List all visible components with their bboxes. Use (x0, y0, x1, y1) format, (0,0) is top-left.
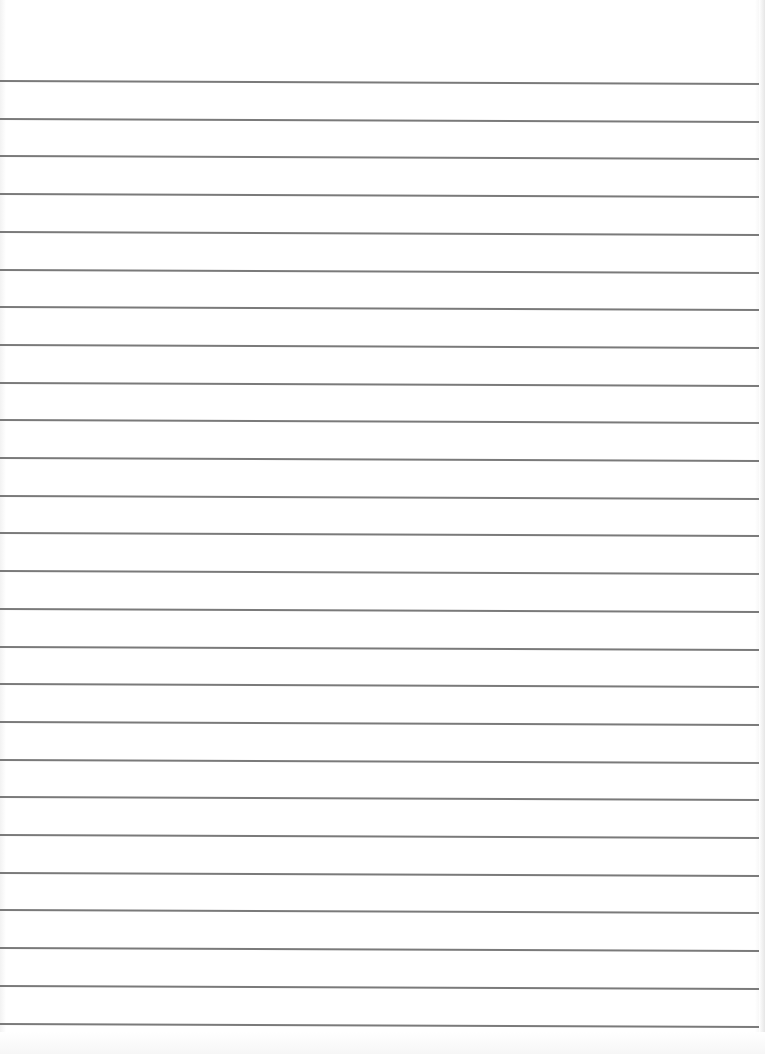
rule-line (0, 1023, 760, 1028)
rule-line (0, 457, 760, 462)
rule-line (0, 570, 760, 575)
rule-line (0, 419, 760, 424)
rule-line (0, 646, 760, 651)
rule-line (0, 608, 760, 613)
rule-line (0, 155, 760, 160)
ruled-paper-page (0, 0, 765, 1054)
rule-line (0, 118, 760, 123)
rule-line (0, 909, 760, 914)
rule-line (0, 306, 760, 311)
rule-line (0, 495, 760, 500)
rule-line (0, 382, 760, 387)
rule-line (0, 872, 760, 877)
rule-line (0, 269, 760, 274)
rule-line (0, 947, 760, 952)
rule-line (0, 193, 760, 198)
rule-line (0, 721, 760, 726)
rule-line (0, 796, 760, 801)
rule-line (0, 759, 760, 764)
rule-line (0, 532, 760, 537)
rule-line (0, 834, 760, 839)
rule-line (0, 683, 760, 688)
rule-line (0, 80, 760, 85)
rule-line (0, 985, 760, 990)
rule-line (0, 231, 760, 236)
rule-line (0, 344, 760, 349)
paper-edge-shadow (759, 0, 765, 1054)
bottom-margin (0, 1032, 765, 1054)
